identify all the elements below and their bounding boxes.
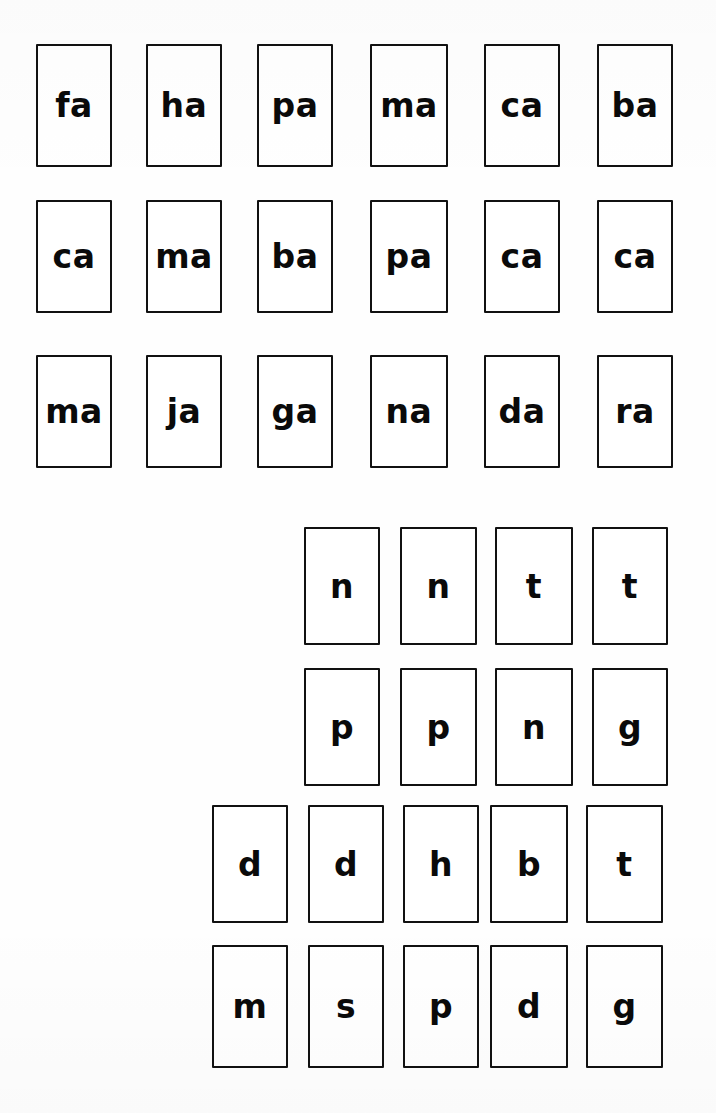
flashcard-label: t <box>526 570 542 603</box>
flashcard[interactable]: ca <box>597 200 673 313</box>
flashcard-label: d <box>517 990 541 1023</box>
flashcard-label: ja <box>167 395 202 428</box>
flashcard[interactable]: p <box>400 668 477 786</box>
flashcard-label: g <box>618 711 642 744</box>
flashcard-label: ha <box>161 89 208 122</box>
flashcard[interactable]: p <box>403 945 479 1068</box>
flashcard[interactable]: da <box>484 355 560 468</box>
flashcard-label: g <box>612 990 636 1023</box>
flashcard[interactable]: ca <box>36 200 112 313</box>
flashcard-label: da <box>499 395 546 428</box>
flashcard[interactable]: s <box>308 945 384 1068</box>
flashcard[interactable]: h <box>403 805 479 923</box>
flashcard[interactable]: d <box>490 945 568 1068</box>
flashcard[interactable]: n <box>495 668 573 786</box>
flashcard-label: ma <box>380 89 438 122</box>
flashcard-label: na <box>386 395 433 428</box>
flashcard[interactable]: ma <box>370 44 448 167</box>
flashcard-label: fa <box>55 89 93 122</box>
flashcard-label: d <box>334 848 358 881</box>
flashcard[interactable]: ma <box>146 200 222 313</box>
flashcard[interactable]: pa <box>257 44 333 167</box>
flashcard-label: d <box>238 848 262 881</box>
flashcard[interactable]: ma <box>36 355 112 468</box>
flashcard[interactable]: p <box>304 668 380 786</box>
flashcard-label: b <box>517 848 541 881</box>
flashcard-label: p <box>426 711 450 744</box>
flashcard-label: ma <box>45 395 103 428</box>
flashcard-label: t <box>616 848 632 881</box>
flashcard[interactable]: ca <box>484 200 560 313</box>
flashcard-label: p <box>330 711 354 744</box>
flashcard[interactable]: t <box>495 527 573 645</box>
flashcard-label: h <box>429 848 453 881</box>
flashcard[interactable]: ba <box>257 200 333 313</box>
flashcard-label: ca <box>501 89 544 122</box>
flashcard-label: ra <box>615 395 655 428</box>
flashcard-label: n <box>330 570 354 603</box>
flashcard-label: n <box>522 711 546 744</box>
flashcard[interactable]: d <box>212 805 288 923</box>
flashcard-label: t <box>622 570 638 603</box>
flashcard-label: ca <box>614 240 657 273</box>
flashcard-label: ba <box>272 240 319 273</box>
flashcard[interactable]: fa <box>36 44 112 167</box>
flashcard[interactable]: ga <box>257 355 333 468</box>
flashcard-label: pa <box>272 89 319 122</box>
flashcard[interactable]: ja <box>146 355 222 468</box>
flashcard-sheet: fahapamacabacamabapacacamajaganadaranntt… <box>0 0 716 1113</box>
flashcard-label: ca <box>53 240 96 273</box>
flashcard[interactable]: g <box>592 668 668 786</box>
flashcard[interactable]: ca <box>484 44 560 167</box>
flashcard[interactable]: n <box>400 527 477 645</box>
flashcard[interactable]: ba <box>597 44 673 167</box>
flashcard-label: ca <box>501 240 544 273</box>
flashcard[interactable]: m <box>212 945 288 1068</box>
flashcard[interactable]: d <box>308 805 384 923</box>
flashcard[interactable]: na <box>370 355 448 468</box>
flashcard-label: m <box>233 990 268 1023</box>
flashcard[interactable]: g <box>586 945 663 1068</box>
flashcard[interactable]: t <box>592 527 668 645</box>
flashcard-label: p <box>429 990 453 1023</box>
flashcard-label: ma <box>155 240 213 273</box>
flashcard-label: ba <box>612 89 659 122</box>
flashcard[interactable]: b <box>490 805 568 923</box>
flashcard[interactable]: n <box>304 527 380 645</box>
flashcard[interactable]: ra <box>597 355 673 468</box>
flashcard-label: n <box>427 570 451 603</box>
flashcard[interactable]: pa <box>370 200 448 313</box>
flashcard[interactable]: t <box>586 805 663 923</box>
flashcard[interactable]: ha <box>146 44 222 167</box>
flashcard-label: ga <box>272 395 319 428</box>
flashcard-label: s <box>336 990 356 1023</box>
flashcard-label: pa <box>386 240 433 273</box>
